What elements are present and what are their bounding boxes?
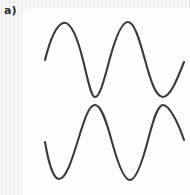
waveform-plot [0,0,190,195]
lower-sine-wave [45,105,184,180]
upper-sine-wave [45,22,184,97]
figure-panel-a: a) [0,0,190,195]
